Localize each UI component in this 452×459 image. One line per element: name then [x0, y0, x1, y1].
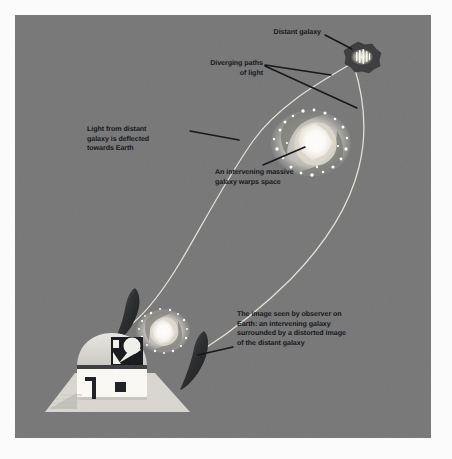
observed-galaxy-image	[136, 308, 190, 354]
gravitational-lensing-figure: Distant galaxy Diverging paths of light …	[0, 0, 452, 459]
leader-lines	[190, 35, 357, 355]
leader-deflected	[190, 131, 239, 140]
diagram-canvas	[15, 15, 431, 438]
label-intervening-galaxy: An intervening massive galaxy warps spac…	[215, 168, 335, 187]
distant-galaxy-blob	[344, 42, 381, 73]
label-light-deflected: Light from distant galaxy is deflected t…	[87, 125, 185, 154]
intervening-massive-galaxy	[271, 109, 351, 177]
label-distant-galaxy: Distant galaxy	[229, 28, 321, 38]
figure-panel: Distant galaxy Diverging paths of light …	[15, 15, 431, 438]
diverging-light-path-left	[133, 65, 349, 323]
label-diverging-paths: Diverging paths of light	[175, 59, 263, 78]
light-paths	[133, 65, 364, 351]
leader-distant-galaxy	[325, 35, 352, 49]
label-observed-image: The image seen by observer on Earth: an …	[237, 310, 387, 348]
